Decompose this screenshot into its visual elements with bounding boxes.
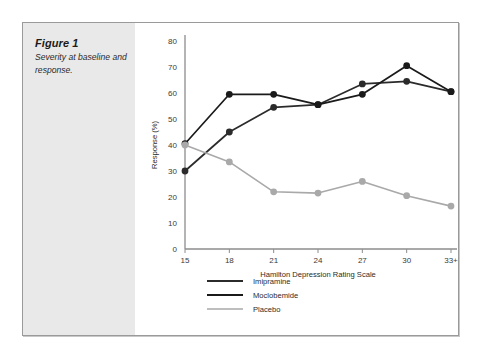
x-tick-label: 27 xyxy=(358,256,367,265)
data-point-placebo xyxy=(182,142,189,149)
data-point-placebo xyxy=(315,190,322,197)
data-point-moclobemide xyxy=(448,88,455,95)
x-tick-label: 30 xyxy=(402,256,411,265)
y-tick-label: 0 xyxy=(173,245,178,254)
legend-label-placebo: Placebo xyxy=(253,305,280,314)
legend-label-moclobemide: Moclobemide xyxy=(253,291,298,300)
y-tick-label: 20 xyxy=(168,193,177,202)
data-point-placebo xyxy=(226,159,233,166)
data-point-imipramine xyxy=(182,168,189,175)
data-point-placebo xyxy=(448,203,455,210)
data-point-imipramine xyxy=(403,78,410,85)
y-tick-label: 30 xyxy=(168,167,177,176)
data-point-moclobemide xyxy=(403,62,410,69)
line-chart: 01020304050607080 15182124273033+ Respon… xyxy=(135,23,460,335)
data-point-imipramine xyxy=(270,104,277,111)
x-tick-label: 18 xyxy=(225,256,234,265)
figure-number-label: Figure 1 xyxy=(35,37,79,49)
data-point-placebo xyxy=(359,178,366,185)
y-tick-label: 40 xyxy=(168,141,177,150)
data-point-moclobemide xyxy=(359,91,366,98)
y-tick-label: 70 xyxy=(168,63,177,72)
chart-legend: ImipramineMoclobemidePlacebo xyxy=(207,277,298,314)
caption-panel: Figure 1 Severity at baseline and respon… xyxy=(23,23,135,335)
y-tick-label: 80 xyxy=(168,37,177,46)
plot-panel: 01020304050607080 15182124273033+ Respon… xyxy=(135,23,458,335)
y-axis-tick-group: 01020304050607080 xyxy=(168,37,177,254)
x-tick-label: 21 xyxy=(269,256,278,265)
data-point-imipramine xyxy=(359,81,366,88)
y-axis-title: Response (%) xyxy=(150,120,159,169)
figure-container: Figure 1 Severity at baseline and respon… xyxy=(22,22,459,336)
y-tick-label: 50 xyxy=(168,115,177,124)
legend-label-imipramine: Imipramine xyxy=(253,277,291,286)
data-point-moclobemide xyxy=(226,91,233,98)
data-point-moclobemide xyxy=(315,101,322,108)
x-tick-label: 15 xyxy=(181,256,190,265)
x-tick-label: 33+ xyxy=(444,256,458,265)
series-line-imipramine xyxy=(185,81,451,171)
data-series-group xyxy=(182,62,455,209)
data-point-placebo xyxy=(270,188,277,195)
data-point-imipramine xyxy=(226,129,233,136)
x-tick-label: 24 xyxy=(314,256,323,265)
figure-caption-text: Severity at baseline and response. xyxy=(35,51,127,76)
series-line-placebo xyxy=(185,145,451,206)
x-axis-tick-group: 15182124273033+ xyxy=(181,249,459,265)
y-tick-label: 60 xyxy=(168,89,177,98)
data-point-placebo xyxy=(403,192,410,199)
data-point-moclobemide xyxy=(270,91,277,98)
y-tick-label: 10 xyxy=(168,219,177,228)
